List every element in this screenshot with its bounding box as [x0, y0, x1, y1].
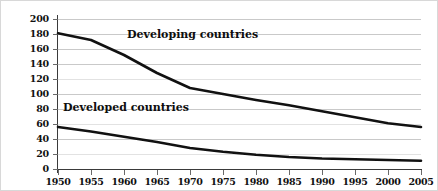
gridline-60 — [58, 124, 421, 125]
x-tick-1960 — [124, 170, 125, 175]
x-tick-1950 — [58, 170, 59, 175]
x-tick-1975 — [223, 170, 224, 175]
y-tick-100 — [53, 94, 58, 95]
chart-figure: 200 180 160 140 120 100 80 60 40 20 0 19… — [0, 0, 438, 191]
gridline-160 — [58, 49, 421, 50]
y-tick-200 — [53, 19, 58, 20]
y-tick-20 — [53, 154, 58, 155]
x-tick-1995 — [355, 170, 356, 175]
gridline-200 — [58, 19, 421, 20]
y-axis-label: 100 — [15, 89, 49, 99]
y-axis-label: 180 — [15, 29, 49, 39]
y-axis-label: 60 — [15, 119, 49, 129]
gridline-120 — [58, 79, 421, 80]
gridline-20 — [58, 154, 421, 155]
y-axis-label: 200 — [15, 14, 49, 24]
y-axis-label: 140 — [15, 59, 49, 69]
y-axis-label: 120 — [15, 74, 49, 84]
y-axis-label: 40 — [15, 134, 49, 144]
x-tick-1990 — [322, 170, 323, 175]
gridline-140 — [58, 64, 421, 65]
y-axis-label: 80 — [15, 104, 49, 114]
y-axis-label: 160 — [15, 44, 49, 54]
plot-area — [58, 19, 421, 169]
x-tick-2000 — [388, 170, 389, 175]
x-tick-2005 — [421, 170, 422, 175]
gridline-40 — [58, 139, 421, 140]
x-tick-1965 — [157, 170, 158, 175]
x-tick-1955 — [91, 170, 92, 175]
y-axis-label: 20 — [15, 149, 49, 159]
y-tick-40 — [53, 139, 58, 140]
y-tick-180 — [53, 34, 58, 35]
y-tick-160 — [53, 49, 58, 50]
y-tick-120 — [53, 79, 58, 80]
x-tick-1980 — [256, 170, 257, 175]
series-annotation-developed: Developed countries — [63, 101, 189, 114]
x-axis-line — [57, 169, 422, 170]
x-tick-1985 — [289, 170, 290, 175]
x-axis-label: 2005 — [401, 177, 438, 187]
gridline-100 — [58, 94, 421, 95]
x-tick-1970 — [190, 170, 191, 175]
y-tick-140 — [53, 64, 58, 65]
y-tick-80 — [53, 109, 58, 110]
series-annotation-developing: Developing countries — [127, 28, 258, 41]
y-axis-label: 0 — [15, 164, 49, 174]
y-axis-labels: 200 180 160 140 120 100 80 60 40 20 0 — [1, 1, 49, 191]
y-tick-60 — [53, 124, 58, 125]
